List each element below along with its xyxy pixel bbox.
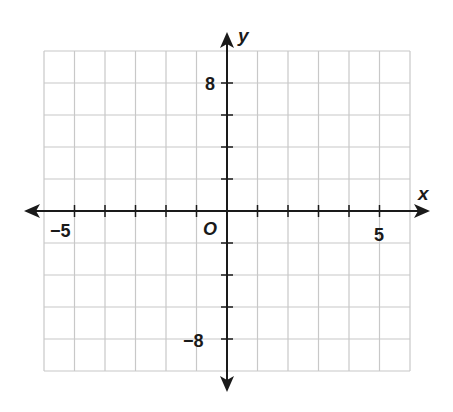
y-tick-label-8: 8 (205, 74, 215, 94)
x-axis-label: x (417, 183, 430, 204)
y-axis-label: y (237, 25, 250, 46)
x-tick-label-neg5: −5 (50, 221, 71, 241)
axes (24, 32, 430, 392)
coordinate-plane: x y O −5 5 8 −8 (0, 0, 453, 412)
x-tick-label-5: 5 (374, 225, 384, 245)
y-tick-label-neg8: −8 (183, 331, 204, 351)
origin-label: O (203, 219, 217, 239)
